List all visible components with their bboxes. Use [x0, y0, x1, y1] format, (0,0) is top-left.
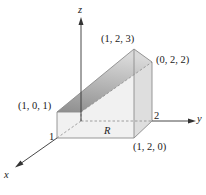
y-axis-label: y [197, 114, 202, 125]
x-arrow-icon [15, 161, 24, 168]
diagram-canvas [0, 0, 206, 195]
point-label-0-2-2: (0, 2, 2) [156, 55, 189, 66]
y-arrow-icon [188, 119, 196, 124]
x-axis-label: x [4, 170, 9, 181]
z-arrow-icon [79, 17, 84, 25]
y-tick-label: 2 [154, 111, 159, 122]
point-label-1-2-0: (1, 2, 0) [133, 142, 166, 153]
point-label-1-0-1: (1, 0, 1) [18, 101, 51, 112]
x-tick-label: 1 [49, 132, 54, 143]
point-label-1-2-3: (1, 2, 3) [101, 34, 134, 45]
region-label: R [104, 126, 110, 137]
z-axis-label: z [78, 5, 82, 16]
